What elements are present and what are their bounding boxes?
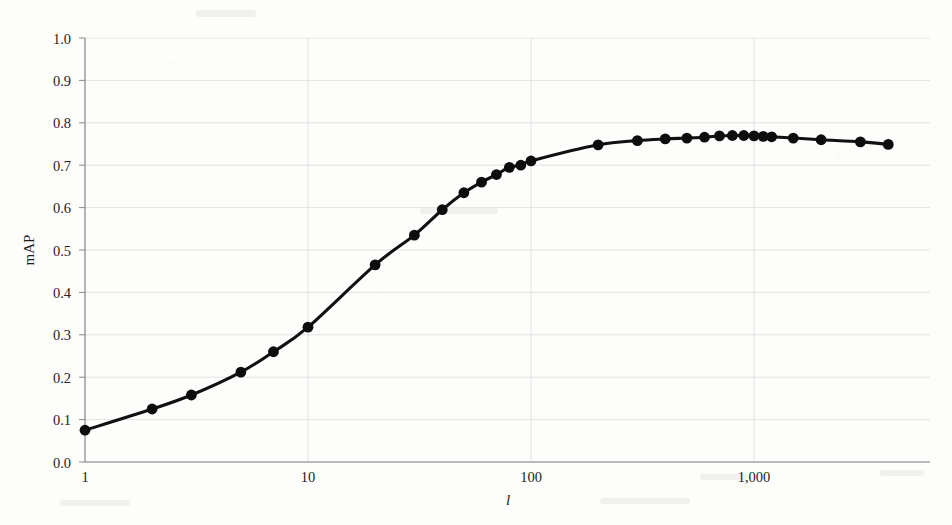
- y-tick-label: 0.2: [53, 370, 71, 386]
- data-point: [738, 130, 749, 141]
- data-point: [883, 139, 894, 150]
- data-point: [437, 204, 448, 215]
- data-point: [714, 131, 725, 142]
- y-tick-label: 0.8: [53, 115, 71, 131]
- data-point: [593, 139, 604, 150]
- y-tick-label: 0.5: [53, 243, 71, 259]
- data-point: [409, 230, 420, 241]
- data-point: [370, 259, 381, 270]
- x-tick-label: 1: [81, 469, 88, 485]
- data-point: [727, 130, 738, 141]
- data-point: [766, 131, 777, 142]
- x-tick-label: 100: [520, 469, 542, 485]
- y-tick-label: 0.9: [53, 73, 71, 89]
- y-tick-label: 0.7: [53, 158, 71, 174]
- data-point: [788, 133, 799, 144]
- data-point: [458, 187, 469, 198]
- y-tick-label: 0.0: [53, 455, 71, 471]
- data-point: [526, 156, 537, 167]
- scan-artifacts: [60, 10, 924, 506]
- data-point: [632, 135, 643, 146]
- x-axis-title: l: [506, 492, 510, 508]
- data-point: [268, 346, 279, 357]
- data-point: [303, 322, 314, 333]
- x-tick-label: 10: [301, 469, 316, 485]
- series-line: [85, 135, 888, 430]
- y-tick-label: 1.0: [53, 31, 71, 47]
- data-point: [491, 169, 502, 180]
- data-point: [699, 132, 710, 143]
- y-axis-title: mAP: [21, 235, 37, 266]
- data-point: [515, 160, 526, 171]
- x-tick-labels: 1 10 100 1,000: [81, 469, 770, 485]
- x-tick-label: 1,000: [738, 469, 771, 485]
- data-point: [855, 136, 866, 147]
- chart-svg: 1.0 0.9 0.8 0.7 0.6 0.5 0.4 0.3 0.2 0.1 …: [0, 0, 952, 525]
- data-point: [147, 404, 158, 415]
- chart-figure: 1.0 0.9 0.8 0.7 0.6 0.5 0.4 0.3 0.2 0.1 …: [0, 0, 952, 525]
- data-point: [504, 162, 515, 173]
- y-tick-label: 0.4: [53, 285, 72, 301]
- y-tick-labels: 1.0 0.9 0.8 0.7 0.6 0.5 0.4 0.3 0.2 0.1 …: [53, 31, 72, 471]
- data-point: [681, 133, 692, 144]
- y-tick-label: 0.3: [53, 327, 71, 343]
- data-point: [660, 134, 671, 145]
- data-point: [476, 177, 487, 188]
- y-tick-label: 0.6: [53, 200, 71, 216]
- data-point: [749, 131, 760, 142]
- y-tickmarks: [79, 38, 85, 462]
- data-point: [816, 134, 827, 145]
- data-series-layer: [80, 130, 894, 435]
- y-tick-label: 0.1: [53, 412, 71, 428]
- data-point: [186, 390, 197, 401]
- data-point: [80, 425, 91, 436]
- y-gridlines: [85, 38, 930, 420]
- data-point: [235, 367, 246, 378]
